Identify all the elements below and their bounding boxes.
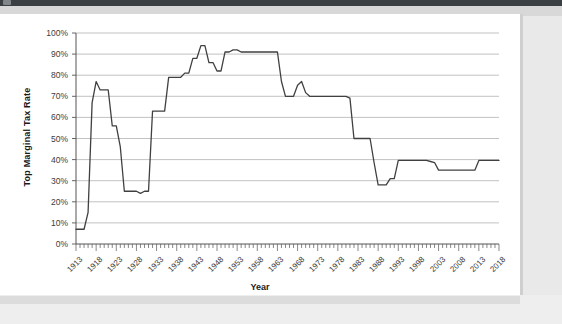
- document-panel: Top Marginal Tax Rate Year 100%90%80%70%…: [0, 14, 523, 298]
- y-tick-text: 90%: [28, 49, 68, 59]
- y-tick-text: 50%: [28, 134, 68, 144]
- screenshot-root: Top Marginal Tax Rate Year 100%90%80%70%…: [0, 0, 562, 324]
- y-tick-text: 100%: [28, 28, 68, 38]
- y-tick-text: 30%: [28, 176, 68, 186]
- y-tick-text: 20%: [28, 197, 68, 207]
- y-tick-text: 0%: [28, 239, 68, 249]
- x-axis-minor-ticks: [76, 244, 499, 251]
- y-axis-major-ticks: [72, 33, 76, 244]
- page-bottom-band: [0, 296, 520, 304]
- y-tick-text: 40%: [28, 155, 68, 165]
- plot-area: [0, 14, 520, 295]
- app-icon: [3, 0, 11, 5]
- y-tick-text: 70%: [28, 91, 68, 101]
- gridlines: [76, 33, 499, 244]
- y-tick-text: 80%: [28, 70, 68, 80]
- y-tick-text: 60%: [28, 112, 68, 122]
- line-chart: Top Marginal Tax Rate Year 100%90%80%70%…: [0, 14, 520, 295]
- y-tick-text: 10%: [28, 218, 68, 228]
